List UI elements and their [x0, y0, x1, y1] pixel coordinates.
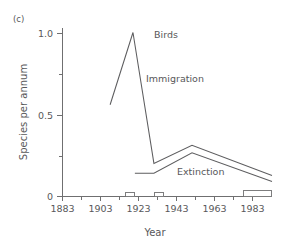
panel-label: (c) — [13, 14, 24, 24]
bird-species-turnover-chart: (c) Birds 1.0 0.5 0 Species per annum — [0, 0, 281, 250]
x-tick-label-1903: 1903 — [88, 203, 112, 214]
immigration-label: Immigration — [146, 73, 204, 84]
y-tick-label-1: 0.5 — [38, 110, 53, 121]
x-tick-label-1943: 1943 — [164, 203, 188, 214]
baseline-marker-3 — [244, 191, 272, 197]
y-tick-label-2: 1.0 — [38, 28, 53, 39]
y-axis-title: Species per annum — [18, 64, 29, 160]
immigration-line — [110, 33, 272, 176]
y-tick-label-0: 0 — [47, 191, 53, 202]
x-tick-label-1963: 1963 — [202, 203, 226, 214]
baseline-marker-1 — [126, 193, 135, 197]
chart-svg: (c) Birds 1.0 0.5 0 Species per annum — [0, 0, 281, 250]
x-tick-label-1983: 1983 — [240, 203, 264, 214]
extinction-label: Extinction — [177, 166, 224, 177]
chart-title: Birds — [154, 29, 178, 40]
x-tick-label-1883: 1883 — [50, 203, 74, 214]
x-axis-title: Year — [143, 227, 166, 238]
x-tick-label-1923: 1923 — [126, 203, 150, 214]
baseline-marker-2 — [155, 193, 164, 197]
